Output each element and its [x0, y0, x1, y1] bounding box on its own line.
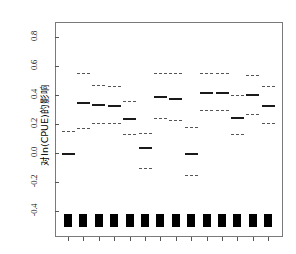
- rug-mark: [156, 214, 164, 227]
- estimate-line: [169, 98, 182, 100]
- y-tick-label: 0.8: [29, 23, 39, 49]
- ci-upper-line: [231, 95, 244, 97]
- rug-mark: [172, 214, 180, 227]
- rug-mark: [141, 214, 149, 227]
- ci-lower-line: [246, 114, 259, 116]
- y-axis-label: 对ln(CPUE)的影响: [37, 50, 51, 200]
- ci-lower-line: [154, 118, 167, 120]
- ci-upper-line: [139, 133, 152, 135]
- estimate-line: [92, 104, 105, 106]
- x-tick-mark: [130, 237, 131, 241]
- ci-upper-line: [169, 73, 182, 75]
- ci-lower-line: [123, 134, 136, 136]
- estimate-line: [77, 102, 90, 104]
- ci-upper-line: [262, 86, 275, 88]
- rug-mark: [218, 214, 226, 227]
- ci-upper-line: [62, 131, 75, 133]
- ci-lower-line: [200, 110, 213, 112]
- x-tick-mark: [207, 237, 208, 241]
- rug-mark: [233, 214, 241, 227]
- estimate-line: [123, 118, 136, 120]
- rug-mark: [64, 214, 72, 227]
- x-tick-mark: [222, 237, 223, 241]
- estimate-line: [262, 105, 275, 107]
- y-tick-label: 0.6: [29, 52, 39, 78]
- estimate-line: [231, 117, 244, 119]
- ci-upper-line: [246, 75, 259, 77]
- y-tick-mark: [55, 95, 59, 96]
- y-tick-mark: [55, 66, 59, 67]
- y-tick-label: 0.4: [29, 81, 39, 107]
- estimate-line: [139, 147, 152, 149]
- x-tick-mark: [176, 237, 177, 241]
- x-tick-mark: [68, 237, 69, 241]
- y-tick-label: 0.2: [29, 110, 39, 136]
- y-tick-label: 0.0: [29, 139, 39, 165]
- y-tick-mark: [55, 124, 59, 125]
- x-tick-mark: [114, 237, 115, 241]
- x-tick-mark: [83, 237, 84, 241]
- ci-lower-line: [92, 123, 105, 125]
- ci-lower-line: [108, 123, 121, 125]
- rug-mark: [249, 214, 257, 227]
- y-tick-mark: [55, 211, 59, 212]
- x-tick-mark: [268, 237, 269, 241]
- ci-lower-line: [231, 134, 244, 136]
- x-tick-mark: [237, 237, 238, 241]
- estimate-line: [200, 92, 213, 94]
- ci-lower-line: [216, 110, 229, 112]
- rug-mark: [126, 214, 134, 227]
- rug-mark: [264, 214, 272, 227]
- ci-upper-line: [200, 73, 213, 75]
- rug-mark: [79, 214, 87, 227]
- estimate-line: [62, 153, 75, 155]
- chart-figure: 对ln(CPUE)的影响 0.80.60.40.20.0-0.2-0.4: [0, 0, 296, 254]
- y-tick-mark: [55, 153, 59, 154]
- x-tick-mark: [99, 237, 100, 241]
- estimate-line: [216, 92, 229, 94]
- x-tick-mark: [145, 237, 146, 241]
- estimate-line: [108, 105, 121, 107]
- y-tick-label: -0.2: [29, 168, 39, 194]
- ci-lower-line: [262, 123, 275, 125]
- ci-lower-line: [139, 168, 152, 170]
- y-tick-label: -0.4: [29, 197, 39, 223]
- rug-mark: [95, 214, 103, 227]
- x-tick-mark: [253, 237, 254, 241]
- x-tick-mark: [160, 237, 161, 241]
- ci-lower-line: [185, 175, 198, 177]
- ci-lower-line: [169, 120, 182, 122]
- ci-upper-line: [185, 127, 198, 129]
- ci-upper-line: [92, 85, 105, 87]
- ci-upper-line: [77, 73, 90, 75]
- ci-upper-line: [108, 86, 121, 88]
- rug-mark: [203, 214, 211, 227]
- ci-upper-line: [216, 73, 229, 75]
- estimate-line: [246, 94, 259, 96]
- rug-mark: [110, 214, 118, 227]
- rug-mark: [187, 214, 195, 227]
- ci-upper-line: [123, 101, 136, 103]
- y-tick-mark: [55, 37, 59, 38]
- ci-lower-line: [77, 128, 90, 130]
- ci-upper-line: [154, 73, 167, 75]
- x-tick-mark: [191, 237, 192, 241]
- y-tick-mark: [55, 182, 59, 183]
- estimate-line: [154, 96, 167, 98]
- estimate-line: [185, 153, 198, 155]
